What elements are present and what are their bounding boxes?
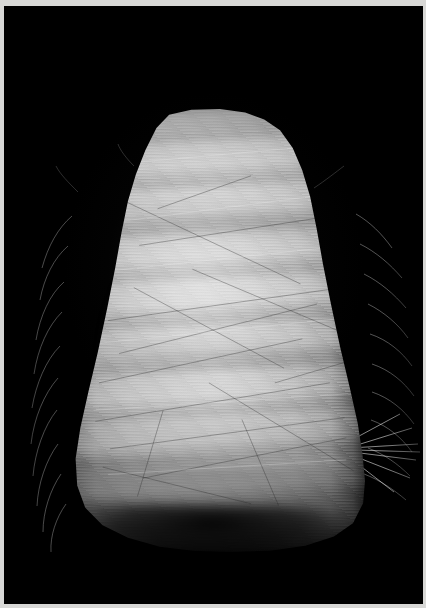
photograph-frame: Close-up studio photograph of a tall con… (0, 0, 426, 608)
cone-silhouette (55, 108, 372, 552)
fiber-cone-subject (4, 6, 423, 604)
cone-vertical-falloff (55, 108, 372, 552)
cone-contact-shadow (44, 506, 380, 592)
photograph-canvas (4, 6, 423, 604)
